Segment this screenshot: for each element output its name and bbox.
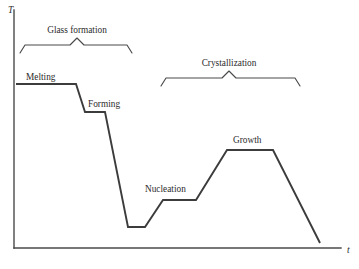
glass-formation-label: Glass formation [47,25,107,35]
curve-group [16,84,320,243]
crystallization-brace [161,71,300,86]
diagram-canvas: T t Glass formation Crystallization Melt… [0,0,359,269]
x-axis-label: t [347,245,350,255]
temperature-time-diagram: T t Glass formation Crystallization Melt… [0,0,359,269]
brace-group: Glass formation Crystallization [20,25,300,86]
glass-formation-brace [20,38,132,53]
melting-label: Melting [26,72,56,82]
crystallization-label: Crystallization [202,58,257,68]
temperature-profile-curve [16,84,320,243]
forming-label: Forming [88,99,120,109]
stage-label-group: Melting Forming Nucleation Growth [26,72,262,194]
growth-label: Growth [233,135,262,145]
y-axis-label: T [8,5,14,15]
nucleation-label: Nucleation [145,184,186,194]
axes-group: T t [8,5,350,255]
